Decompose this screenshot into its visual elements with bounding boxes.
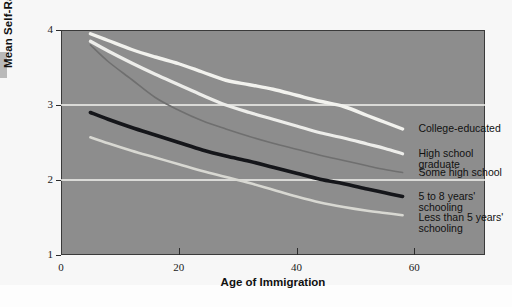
y-tick-mark xyxy=(56,30,61,31)
y-axis-title: Mean Self-Rated English Proficiency xyxy=(2,0,14,68)
series-line-4 xyxy=(90,137,402,215)
y-axis-title-host: Mean Self-Rated English Proficiency xyxy=(28,28,48,258)
x-tick-mark xyxy=(179,248,180,255)
series-label-4: Less than 5 years' schooling xyxy=(418,212,503,235)
x-tick-mark xyxy=(297,248,298,255)
series-line-1 xyxy=(90,41,402,154)
x-tick-label: 20 xyxy=(164,261,194,273)
figure: Mean Self-Rated English Proficiency 1234… xyxy=(0,0,512,307)
x-tick-label: 40 xyxy=(282,261,312,273)
series-line-3 xyxy=(90,113,402,197)
x-axis-title: Age of Immigration xyxy=(61,276,485,288)
series-label-0: College-educated xyxy=(418,123,500,135)
y-tick-label: 1 xyxy=(31,248,53,260)
y-tick-label: 3 xyxy=(31,98,53,110)
y-tick-mark xyxy=(56,105,61,106)
x-tick-mark xyxy=(414,248,415,255)
series-label-2: Some high school xyxy=(418,167,501,179)
y-tick-mark xyxy=(56,255,61,256)
y-tick-label: 2 xyxy=(31,173,53,185)
y-tick-label: 4 xyxy=(31,23,53,35)
x-tick-label: 60 xyxy=(399,261,429,273)
series-line-0 xyxy=(90,34,402,129)
y-tick-mark xyxy=(56,180,61,181)
x-tick-label: 0 xyxy=(46,261,76,273)
